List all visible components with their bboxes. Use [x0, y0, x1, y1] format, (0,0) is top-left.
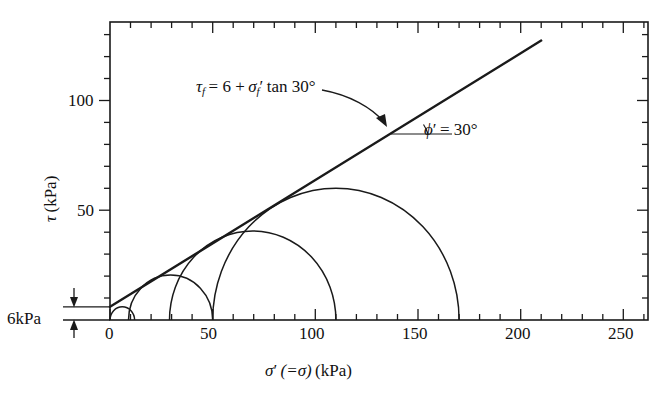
- x-tick-label-50: 50: [200, 325, 217, 342]
- y-tick-label-50: 50: [77, 202, 94, 219]
- x-tick-label-150: 150: [402, 325, 428, 342]
- y-axis-title: τ (kPa): [42, 176, 59, 222]
- x-tick-label-100: 100: [299, 325, 325, 342]
- x-axis-prime: ′: [273, 361, 277, 380]
- chart-background: [0, 0, 662, 401]
- y-tick-label-100: 100: [68, 92, 94, 109]
- x-axis-equality: (=σ): [281, 361, 312, 380]
- phi-value: = 30°: [440, 120, 478, 139]
- y-axis-tau: τ: [41, 216, 60, 222]
- x-axis-unit: (kPa): [315, 361, 352, 380]
- mohr-circle-chart: [0, 0, 662, 401]
- x-tick-label-0: 0: [105, 325, 114, 342]
- x-tick-label-250: 250: [608, 325, 634, 342]
- equation-middle: = 6 +: [209, 77, 245, 96]
- equation-sigma: σ: [248, 77, 256, 96]
- phi-symbol: ϕ: [424, 120, 433, 139]
- friction-angle-label: ϕ′ = 30°: [424, 121, 478, 138]
- x-axis-title: σ′ (=σ) (kPa): [265, 362, 352, 379]
- envelope-equation-label: τf = 6 + σf′ tan 30°: [196, 78, 316, 97]
- y-axis-unit: (kPa): [41, 176, 60, 213]
- x-tick-label-200: 200: [505, 325, 531, 342]
- equation-tau-subscript: f: [202, 85, 205, 97]
- equation-tan-term: tan 30°: [267, 77, 316, 96]
- phi-prime: ′: [433, 120, 437, 139]
- equation-sigma-prime: ′: [260, 77, 264, 96]
- cohesion-intercept-label: 6kPa: [7, 310, 41, 327]
